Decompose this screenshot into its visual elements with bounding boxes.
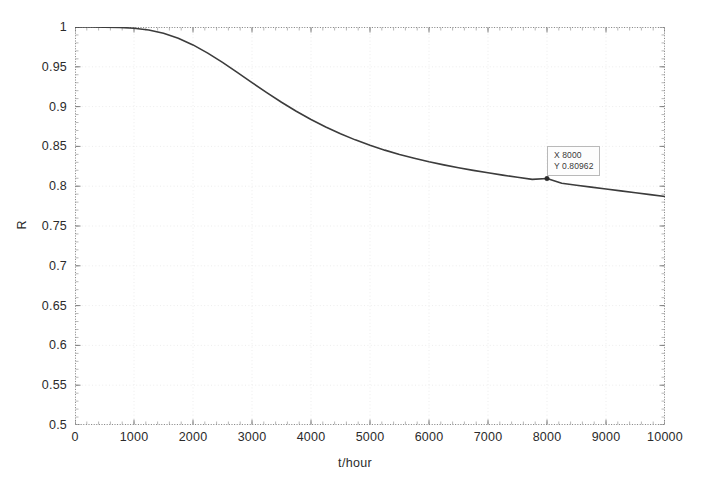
y-tick-label: 0.85: [7, 139, 67, 153]
x-tick-label: 0: [45, 430, 105, 444]
datatip-x-value: X 8000: [554, 150, 594, 161]
y-tick-label: 1: [7, 20, 67, 34]
y-tick-label: 0.95: [7, 60, 67, 74]
datatip-box[interactable]: X 8000 Y 0.80962: [547, 146, 600, 176]
x-tick-label: 3000: [222, 430, 282, 444]
gridlines: [75, 27, 665, 425]
x-tick-label: 1000: [104, 430, 164, 444]
x-axis-label: t/hour: [0, 456, 710, 470]
x-tick-label: 7000: [458, 430, 518, 444]
y-tick-label: 0.65: [7, 299, 67, 313]
plot-area[interactable]: [75, 27, 665, 425]
y-tick-label: 0.8: [7, 179, 67, 193]
plot-svg: [75, 27, 665, 425]
y-tick-label: 0.9: [7, 100, 67, 114]
x-tick-label: 6000: [399, 430, 459, 444]
x-tick-label: 2000: [163, 430, 223, 444]
datatip-y-value: Y 0.80962: [554, 161, 594, 172]
figure-canvas: R 0.50.550.60.650.70.750.80.850.90.951 0…: [0, 0, 710, 497]
datatip-marker[interactable]: [545, 176, 549, 180]
y-tick-label: 0.55: [7, 378, 67, 392]
x-tick-label: 10000: [635, 430, 695, 444]
x-tick-label: 4000: [281, 430, 341, 444]
x-tick-label: 5000: [340, 430, 400, 444]
y-tick-label: 0.6: [7, 338, 67, 352]
y-tick-label: 0.7: [7, 259, 67, 273]
x-tick-label: 8000: [517, 430, 577, 444]
x-tick-label: 9000: [576, 430, 636, 444]
y-tick-label: 0.75: [7, 219, 67, 233]
